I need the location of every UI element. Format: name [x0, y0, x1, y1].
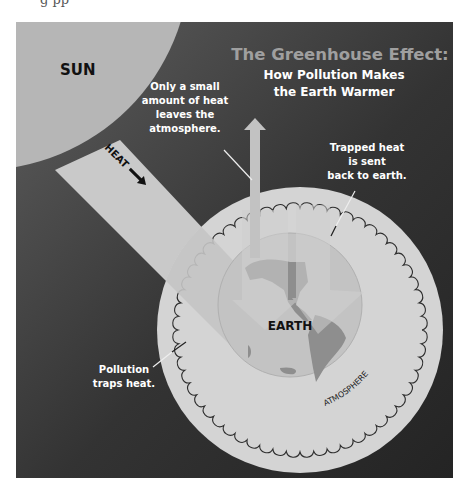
sun-label: SUN [60, 61, 96, 79]
title-line-1: The Greenhouse Effect: [231, 45, 448, 64]
leaves-line-3: leaves the [156, 109, 215, 120]
cropped-caption: g pp [40, 0, 69, 7]
leaves-line-2: amount of heat [142, 95, 229, 106]
title-line-2: How Pollution Makes [263, 68, 404, 82]
leaves-line-4: atmosphere. [149, 123, 220, 134]
trapped-line-3: back to earth. [327, 170, 406, 181]
pollution-line-2: traps heat. [93, 378, 155, 389]
trapped-line-2: is sent [348, 156, 386, 167]
trapped-line-1: Trapped heat [330, 142, 405, 153]
leaves-line-1: Only a small [150, 81, 219, 92]
earth-label: EARTH [268, 319, 312, 333]
title-line-3: the Earth Warmer [274, 85, 395, 99]
greenhouse-diagram: g pp [0, 0, 472, 490]
pollution-line-1: Pollution [99, 364, 149, 375]
